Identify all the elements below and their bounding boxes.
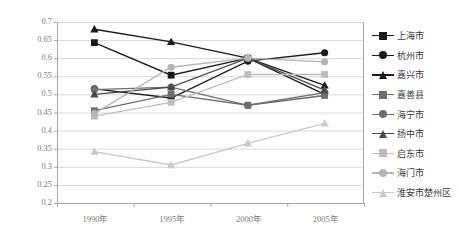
legend-item-4[interactable]: 海宁市 — [372, 104, 458, 124]
x-tick-label: 2005年 — [287, 212, 364, 224]
y-tick-label: 0.2 — [8, 197, 52, 207]
legend-label: 嘉兴市 — [397, 68, 424, 81]
legend-marker-circle-icon — [379, 169, 387, 177]
y-tick-label: 0.45 — [8, 107, 52, 117]
x-tick-label: 1990年 — [57, 212, 134, 224]
legend-item-0[interactable]: 上海市 — [372, 26, 458, 46]
legend-label: 嘉善县 — [397, 88, 424, 101]
legend-key — [372, 146, 394, 160]
data-point-circle — [244, 55, 251, 62]
y-tick-label: 0.3 — [8, 161, 52, 171]
y-tick-label: 0.35 — [8, 143, 52, 153]
data-point-square — [168, 72, 175, 79]
data-point-square — [244, 71, 251, 78]
series-7 — [91, 55, 328, 118]
legend-marker-triangle-icon — [379, 130, 387, 138]
legend-marker-triangle-icon — [379, 71, 387, 79]
legend-item-1[interactable]: 杭州市 — [372, 46, 458, 66]
y-tick-label: 0.6 — [8, 52, 52, 62]
data-point-square — [321, 71, 328, 78]
y-tick-label: 0.25 — [8, 179, 52, 189]
y-tick-label: 0.65 — [8, 34, 52, 44]
legend-marker-square-icon — [379, 32, 387, 40]
line-chart: 0.70.650.60.550.50.450.40.350.30.250.2 1… — [0, 0, 459, 237]
data-point-square — [168, 91, 175, 98]
y-tick-label: 0.4 — [8, 125, 52, 135]
legend-marker-square-icon — [379, 149, 387, 157]
legend-key — [372, 68, 394, 82]
data-point-circle — [168, 64, 175, 71]
x-tick-label: 2000年 — [211, 212, 288, 224]
legend-key — [372, 88, 394, 102]
legend-item-7[interactable]: 海门市 — [372, 163, 458, 183]
data-point-square — [168, 99, 175, 106]
y-tick-label: 0.7 — [8, 16, 52, 26]
legend-label: 上海市 — [397, 29, 424, 42]
data-point-circle — [321, 49, 328, 56]
y-tick-label: 0.5 — [8, 88, 52, 98]
legend-key — [372, 166, 394, 180]
legend-marker-circle-icon — [379, 110, 387, 118]
legend-item-2[interactable]: 嘉兴市 — [372, 65, 458, 85]
data-point-circle — [321, 58, 328, 65]
data-point-circle — [91, 110, 98, 117]
data-point-triangle — [90, 147, 98, 154]
legend-marker-circle-icon — [379, 51, 387, 59]
legend-label: 杭州市 — [397, 49, 424, 62]
series-line — [94, 87, 324, 105]
legend-marker-triangle-icon — [379, 189, 387, 197]
legend-label: 启东市 — [397, 147, 424, 160]
legend-label: 淮安市楚州区 — [397, 186, 451, 199]
legend-item-3[interactable]: 嘉善县 — [372, 85, 458, 105]
legend-key — [372, 29, 394, 43]
legend-key — [372, 127, 394, 141]
legend-item-5[interactable]: 扬中市 — [372, 124, 458, 144]
legend-label: 海宁市 — [397, 108, 424, 121]
legend-key — [372, 186, 394, 200]
data-point-triangle — [320, 119, 328, 126]
legend-key — [372, 107, 394, 121]
data-point-triangle — [90, 25, 98, 32]
y-tick-label: 0.55 — [8, 70, 52, 80]
legend-item-6[interactable]: 启东市 — [372, 144, 458, 164]
legend-marker-square-icon — [379, 91, 387, 99]
data-point-circle — [244, 102, 251, 109]
legend-label: 海门市 — [397, 166, 424, 179]
series-8 — [90, 119, 329, 168]
chart-legend: 上海市杭州市嘉兴市嘉善县海宁市扬中市启东市海门市淮安市楚州区 — [372, 26, 458, 202]
x-tick-label: 1995年 — [134, 212, 211, 224]
legend-item-8[interactable]: 淮安市楚州区 — [372, 183, 458, 203]
legend-label: 扬中市 — [397, 127, 424, 140]
series-4 — [91, 84, 328, 109]
legend-key — [372, 48, 394, 62]
data-point-square — [91, 39, 98, 46]
series-line — [94, 123, 324, 165]
